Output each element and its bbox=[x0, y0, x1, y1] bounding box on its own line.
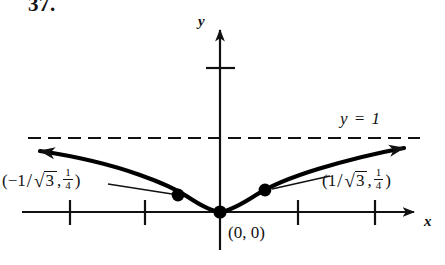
radical-sign: √ bbox=[34, 172, 44, 189]
right-square-root: √ 3 bbox=[344, 172, 366, 189]
radical-sign: √ bbox=[344, 172, 354, 189]
left-square-root: √ 3 bbox=[34, 172, 56, 189]
origin-point-label: (0, 0) bbox=[228, 224, 265, 241]
left-fraction-one-quarter: 1 4 bbox=[63, 167, 73, 191]
graph-canvas bbox=[0, 0, 445, 265]
point-marker-left bbox=[172, 189, 185, 202]
right-close-paren: ) bbox=[385, 172, 391, 189]
left-close-paren: ) bbox=[75, 172, 81, 189]
fraction-denominator: 4 bbox=[63, 179, 73, 192]
right-point-label: ( 1 / √ 3 , 1 4 ) bbox=[322, 168, 391, 192]
problem-number: 37. bbox=[28, 0, 56, 15]
right-slash: / bbox=[336, 171, 343, 190]
asymptote-label: y = 1 bbox=[340, 110, 381, 127]
left-point-label: ( − 1 / √ 3 , 1 4 ) bbox=[2, 168, 80, 192]
point-marker-origin bbox=[213, 205, 226, 218]
right-numerator: 1 bbox=[328, 172, 337, 189]
math-figure: 37. y x y = 1 (0, 0) ( − 1 / √ 3 , 1 4 )… bbox=[0, 0, 445, 265]
axis-label-x: x bbox=[424, 214, 432, 229]
left-slash: / bbox=[26, 171, 33, 190]
right-comma: , bbox=[367, 172, 371, 189]
fraction-numerator: 1 bbox=[374, 167, 384, 179]
axis-label-y: y bbox=[198, 14, 205, 29]
left-numerator: 1 bbox=[17, 172, 26, 189]
radicand: 3 bbox=[355, 172, 367, 189]
left-comma: , bbox=[57, 172, 61, 189]
point-marker-right bbox=[259, 184, 272, 197]
right-fraction-one-quarter: 1 4 bbox=[374, 167, 384, 191]
left-minus-sign: − bbox=[8, 172, 18, 189]
radicand: 3 bbox=[44, 172, 56, 189]
fraction-numerator: 1 bbox=[63, 167, 73, 179]
fraction-denominator: 4 bbox=[374, 179, 384, 192]
